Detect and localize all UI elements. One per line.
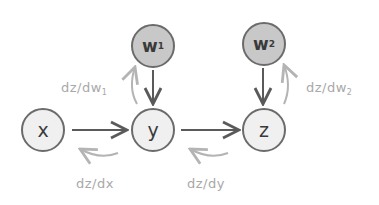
- node-x: x: [21, 108, 65, 152]
- grad-arrow-y-to-x: [80, 149, 118, 156]
- grad-arrow-z-to-w2: [284, 65, 288, 104]
- arrow-layer: [0, 0, 379, 205]
- grad-label-dw1-text: dz/dw: [61, 80, 102, 95]
- node-z-label: z: [259, 119, 269, 141]
- node-w2-sub: 2: [269, 39, 275, 49]
- grad-label-dw1: dz/dw1: [61, 80, 107, 97]
- node-y-label: y: [147, 119, 158, 141]
- grad-label-dy-text: dz/dy: [187, 176, 225, 191]
- grad-label-dy: dz/dy: [187, 176, 225, 191]
- node-z: z: [242, 108, 286, 152]
- grad-label-dx: dz/dx: [76, 176, 114, 191]
- grad-label-dw1-sub: 1: [102, 88, 108, 97]
- grad-label-dw2-text: dz/dw: [306, 80, 347, 95]
- node-y: y: [131, 108, 175, 152]
- node-x-label: x: [37, 119, 48, 141]
- node-w1-label: w: [142, 36, 158, 56]
- node-w1: w1: [131, 24, 175, 68]
- grad-label-dw2-sub: 2: [347, 88, 353, 97]
- grad-label-dx-text: dz/dx: [76, 176, 114, 191]
- grad-label-dw2: dz/dw2: [306, 80, 352, 97]
- grad-arrow-z-to-y: [190, 149, 228, 156]
- node-w1-sub: 1: [158, 41, 164, 51]
- grad-arrow-y-to-w1: [132, 67, 137, 104]
- node-w2: w2: [242, 22, 286, 66]
- node-w2-label: w: [253, 34, 269, 54]
